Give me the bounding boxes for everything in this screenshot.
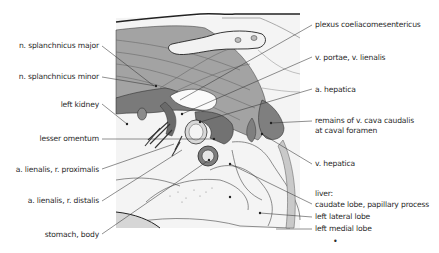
label-liver-header: liver:: [315, 189, 333, 199]
label-left-medial-lobe: left medial lobe: [315, 224, 372, 234]
label-remains-v-cava-caudalis: remains of v. cava caudalis: [315, 116, 414, 126]
left-kidney-icon: [138, 108, 147, 120]
label-stomach-body: stomach, body: [45, 230, 99, 240]
label-a-lienalis-r-distalis: a. lienalis, r. distalis: [28, 196, 99, 206]
footer-mark: •: [333, 237, 338, 247]
label-a-lienalis-r-proximalis: a. lienalis, r. proximalis: [16, 165, 99, 175]
label-caudate-lobe: caudate lobe, papillary process: [315, 200, 429, 210]
label-v-hepatica: v. hepatica: [315, 159, 355, 169]
label-left-kidney: left kidney: [61, 100, 99, 110]
label-v-portae-v-lienalis: v. portae, v. lienalis: [315, 53, 385, 63]
anatomy-figure: n. splanchnicus major n. splanchnicus mi…: [0, 0, 439, 253]
label-left-lateral-lobe: left lateral lobe: [315, 212, 370, 222]
label-a-hepatica: a. hepatica: [315, 85, 356, 95]
label-n-splanchnicus-major: n. splanchnicus major: [19, 41, 99, 51]
label-lesser-omentum: lesser omentum: [39, 134, 99, 144]
label-at-caval-foramen: at caval foramen: [315, 126, 377, 136]
label-plexus-coeliacomesentericus: plexus coeliacomesentericus: [315, 20, 421, 30]
label-n-splanchnicus-minor: n. splanchnicus minor: [19, 72, 99, 82]
